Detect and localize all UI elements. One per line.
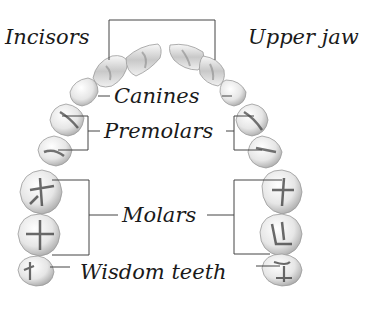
molars-label: Molars bbox=[120, 205, 198, 226]
premolar-tooth bbox=[248, 136, 282, 168]
upper-jaw-teeth-diagram: Incisors Upper jaw Canines Premolars Mol… bbox=[0, 0, 374, 316]
upper-jaw-label: Upper jaw bbox=[246, 27, 361, 48]
incisor-teeth bbox=[93, 44, 224, 87]
wisdom-tooth-right bbox=[262, 254, 302, 286]
incisor-tooth bbox=[126, 44, 161, 76]
premolar-tooth bbox=[50, 104, 84, 136]
wisdom-tooth-left bbox=[18, 256, 54, 286]
premolars-label: Premolars bbox=[102, 121, 215, 142]
incisors-label: Incisors bbox=[3, 27, 92, 48]
canine-tooth-right bbox=[220, 80, 246, 106]
leader-lines bbox=[50, 20, 282, 267]
wisdom-teeth-label: Wisdom teeth bbox=[78, 262, 229, 283]
canines-label: Canines bbox=[112, 86, 202, 107]
premolar-tooth bbox=[236, 104, 268, 136]
canine-tooth-left bbox=[70, 78, 98, 106]
molar-tooth bbox=[260, 214, 302, 256]
